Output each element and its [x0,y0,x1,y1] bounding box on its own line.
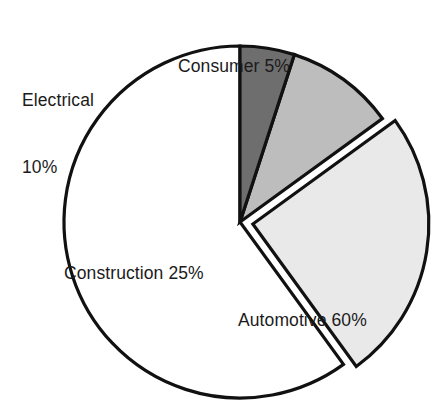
slice-label-construction-text: Construction 25% [64,262,204,284]
slice-label-electrical-value: 10% [22,156,94,178]
pie-chart: Consumer 5% Electrical 10% Construction … [0,0,440,417]
slice-label-electrical-name: Electrical [22,89,94,111]
slice-label-electrical: Electrical 10% [22,44,94,223]
slice-label-construction: Construction 25% [64,217,204,329]
slice-label-consumer: Consumer 5% [178,10,290,122]
slice-label-automotive-text: Automotive 60% [238,309,367,331]
slice-label-automotive: Automotive 60% [238,264,367,376]
slice-label-consumer-text: Consumer 5% [178,55,290,77]
